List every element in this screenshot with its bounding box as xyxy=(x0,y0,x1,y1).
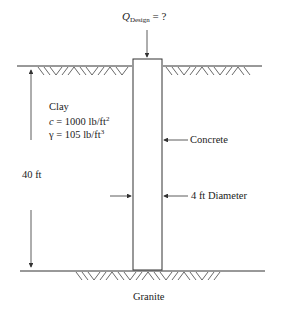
concrete-pile xyxy=(133,59,162,270)
granite-label: Granite xyxy=(133,292,165,303)
depth-label: 40 ft xyxy=(22,170,42,181)
granite-hatch xyxy=(76,272,220,280)
ground-hatch-left xyxy=(38,67,128,75)
unit-weight-label: γ = 105 lb/ft3 xyxy=(49,129,104,141)
cohesion-label: c = 1000 lb/ft2 xyxy=(49,116,109,128)
ground-hatch-right xyxy=(166,67,250,75)
pile-diagram xyxy=(0,0,285,315)
concrete-label: Concrete xyxy=(190,135,228,146)
soil-name: Clay xyxy=(49,102,69,113)
diameter-label: 4 ft Diameter xyxy=(191,191,247,202)
load-label: QDesign = ? xyxy=(122,11,166,24)
